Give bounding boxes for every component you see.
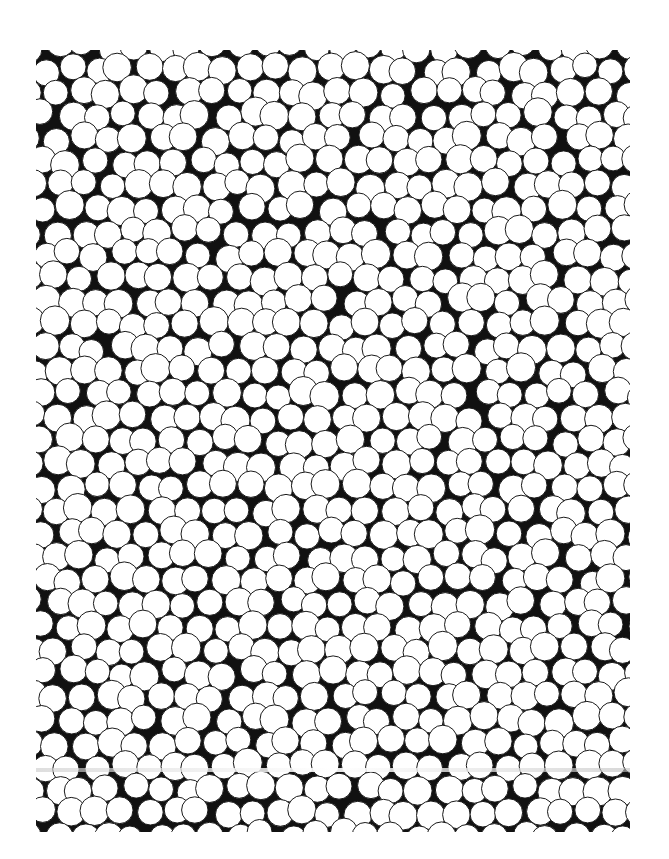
circle-packing-image <box>36 50 630 832</box>
circles-layer <box>36 50 630 832</box>
